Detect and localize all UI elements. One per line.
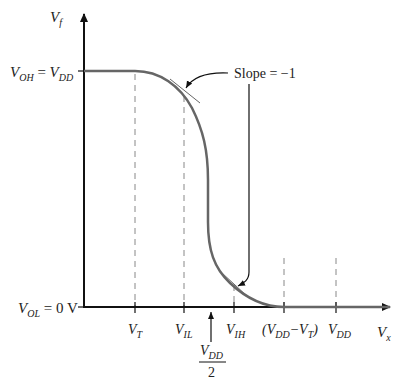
voh-label: VOH = VDD [10, 64, 74, 83]
transfer-curve [84, 71, 390, 307]
y-axis-label: Vf [50, 9, 63, 28]
tick-label-vdd-minus-vt: (VDD−VT) [262, 322, 318, 340]
midpoint-label: VDD 2 [199, 343, 226, 380]
tick-label-vil: VIL [175, 322, 193, 340]
vtc-diagram: Vf Vx VOH = VDD VOL = 0 V Slope = −1 VT … [0, 0, 401, 386]
tick-label-vt: VT [128, 322, 144, 340]
svg-text:2: 2 [208, 365, 215, 380]
vol-label: VOL = 0 V [18, 300, 78, 319]
x-axis-label: Vx [377, 324, 391, 343]
tick-label-vih: VIH [226, 322, 246, 340]
tick-label-vdd: VDD [328, 322, 352, 340]
tangent-vih [222, 273, 248, 297]
svg-text:VDD: VDD [200, 343, 224, 361]
dashed-guides [135, 74, 336, 307]
slope-annotation: Slope = −1 [234, 66, 296, 81]
leader-vih [238, 84, 249, 286]
leader-vil [186, 73, 228, 88]
tangent-vil [170, 79, 200, 103]
